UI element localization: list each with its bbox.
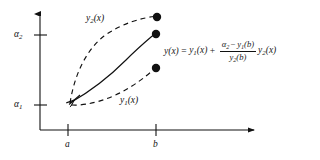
- y-tick-label-alpha-2: α2: [14, 30, 22, 41]
- curve-label-y1-arg: (x): [128, 95, 139, 105]
- formula-expression: y(x) = y1(x) + α2−y1(b) y2(b) y2(x): [164, 40, 276, 63]
- formula-denominator: y2(b): [227, 52, 248, 63]
- y-tick-label-alpha-1: α1: [14, 100, 22, 111]
- formula-tail-arg: (x): [266, 45, 277, 55]
- alpha-2-subscript: 2: [19, 33, 22, 40]
- formula-plus: +: [210, 47, 215, 57]
- endpoint-dot-y: [152, 30, 160, 38]
- curve-y-solid: [70, 35, 154, 104]
- curve-label-y2-arg: (x): [94, 13, 105, 23]
- x-tick-label-a: a: [65, 140, 70, 150]
- formula-tail: y2(x): [258, 46, 276, 57]
- formula-numerator: α2−y1(b): [220, 40, 256, 51]
- curve-label-y1: y1(x): [120, 96, 138, 107]
- formula-lhs: y(x): [164, 47, 179, 57]
- denominator-y-arg: (b): [236, 52, 246, 62]
- curve-label-y2: y2(x): [86, 14, 104, 25]
- formula-lhs-arg: (x): [168, 46, 179, 56]
- endpoint-dot-y2: [153, 13, 161, 21]
- formula-fraction: α2−y1(b) y2(b): [220, 40, 256, 63]
- numerator-alpha-subscript: 2: [226, 43, 229, 50]
- curve-y2-dashed: [70, 17, 154, 104]
- formula-equals: =: [181, 47, 186, 57]
- numerator-y-arg: (b): [244, 39, 254, 49]
- formula-term1: y1(x): [189, 46, 207, 57]
- x-tick-label-b: b: [153, 140, 158, 150]
- plot-canvas: [0, 0, 320, 160]
- alpha-1-subscript: 1: [19, 103, 22, 110]
- endpoint-dot-y1: [152, 64, 160, 72]
- curve-y1-dashed: [72, 69, 154, 105]
- numerator-minus: −: [231, 39, 236, 49]
- formula-term1-arg: (x): [197, 45, 208, 55]
- figure-container: α2 α1 a b y2(x) y1(x) y(x) = y1(x) + α2−…: [0, 0, 320, 160]
